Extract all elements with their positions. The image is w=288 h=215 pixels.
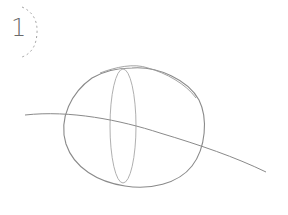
guideline-curve	[25, 114, 266, 172]
step-badge-arc-icon	[22, 7, 37, 57]
sketch-canvas: 1	[0, 0, 288, 215]
sketch-svg	[0, 0, 288, 215]
inner-ellipse	[110, 69, 136, 183]
